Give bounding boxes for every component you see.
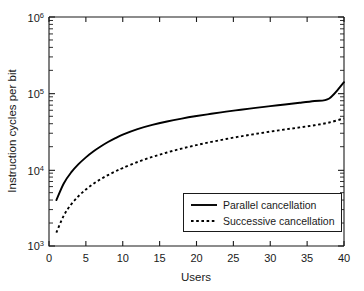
x-tick-label: 20 — [190, 252, 202, 264]
x-tick-label: 30 — [264, 252, 276, 264]
series-parallel-cancellation — [56, 82, 344, 200]
legend-label-parallel: Parallel cancellation — [223, 199, 317, 211]
x-tick-label: 10 — [117, 252, 129, 264]
x-tick-label: 0 — [46, 252, 52, 264]
x-tick-label: 5 — [83, 252, 89, 264]
x-axis-title: Users — [181, 271, 211, 283]
x-tick-label: 40 — [338, 252, 350, 264]
legend-label-successive: Successive cancellation — [223, 215, 335, 227]
y-axis-minor-ticks — [49, 20, 344, 223]
x-tick-label: 25 — [227, 252, 239, 264]
x-tick-label: 35 — [301, 252, 313, 264]
figure-canvas: 106 105 104 103 0510152025303540 Paralle… — [0, 0, 364, 291]
x-tick-label: 15 — [154, 252, 166, 264]
legend[interactable]: Parallel cancellation Successive cancell… — [184, 194, 342, 232]
y-tick-labels: 106 105 104 103 — [28, 11, 44, 253]
y-tick-label-1e4: 104 — [28, 164, 44, 177]
y-tick-label-1e6: 106 — [28, 11, 44, 24]
y-tick-label-1e5: 105 — [28, 87, 44, 100]
y-tick-label-1e3: 103 — [28, 239, 44, 252]
y-axis-title: Instruction cycles per bit — [6, 69, 18, 193]
line-chart: 106 105 104 103 0510152025303540 Paralle… — [0, 0, 364, 291]
x-tick-labels: 0510152025303540 — [46, 252, 350, 264]
